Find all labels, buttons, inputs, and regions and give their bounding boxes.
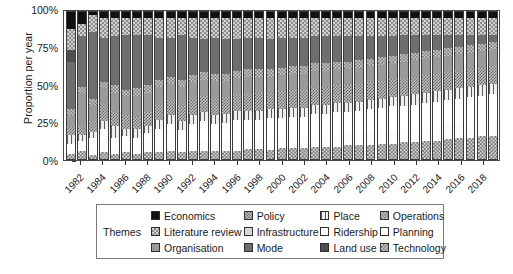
legend-item-label: Infrastructure [257, 226, 319, 238]
legend-swatch-infrastructure-icon [244, 227, 253, 236]
legend-swatch-policy-icon [244, 211, 253, 220]
legend-item-label: Land use [333, 242, 376, 254]
legend-item[interactable]: Planning [380, 226, 446, 238]
legend-items: EconomicsPolicyPlaceOperationsLiterature… [151, 208, 446, 256]
legend-item-label: Operations [393, 210, 444, 222]
legend-item-label: Technology [393, 242, 446, 254]
legend-item-label: Economics [164, 210, 215, 222]
legend-swatch-organisation-icon [151, 243, 160, 252]
legend-swatch-planning-icon [380, 227, 389, 236]
legend-swatch-mode-icon [244, 243, 253, 252]
legend-title: Themes [99, 226, 151, 238]
legend-item[interactable]: Technology [380, 242, 446, 254]
legend-item-label: Literature review [164, 226, 242, 238]
legend-item-label: Ridership [333, 226, 377, 238]
legend-swatch-operations-icon [380, 211, 389, 220]
legend-item[interactable]: Organisation [151, 242, 242, 254]
chart-figure: Proportion per year 0%25%50%75%100% 1982… [0, 0, 513, 274]
legend-item-label: Policy [257, 210, 285, 222]
legend-swatch-economics-icon [151, 211, 160, 220]
legend-swatch-place-icon [320, 211, 329, 220]
legend-swatch-literaturereview-icon [151, 227, 160, 236]
legend-item[interactable]: Mode [244, 242, 319, 254]
legend-item[interactable]: Literature review [151, 226, 242, 238]
legend-swatch-technology-icon [380, 243, 389, 252]
legend-item[interactable]: Policy [244, 210, 319, 222]
legend-item-label: Place [333, 210, 359, 222]
legend-item[interactable]: Ridership [320, 226, 377, 238]
legend-item[interactable]: Operations [380, 210, 446, 222]
legend-item-label: Planning [393, 226, 434, 238]
legend-item[interactable]: Infrastructure [244, 226, 319, 238]
legend-swatch-landuse-icon [320, 243, 329, 252]
legend-item-label: Mode [257, 242, 283, 254]
legend-swatch-ridership-icon [320, 227, 329, 236]
legend-item-label: Organisation [164, 242, 224, 254]
legend-item[interactable]: Land use [320, 242, 377, 254]
legend: Themes EconomicsPolicyPlaceOperationsLit… [96, 204, 444, 259]
legend-item[interactable]: Economics [151, 210, 242, 222]
legend-item[interactable]: Place [320, 210, 377, 222]
